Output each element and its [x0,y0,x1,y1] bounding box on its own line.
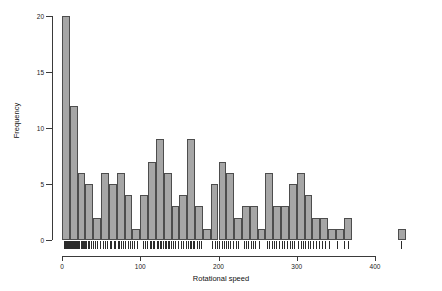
histogram-bar [117,173,125,240]
rug-tick [267,241,268,249]
rug-tick [255,241,256,249]
x-axis-tick-label: 300 [282,263,312,271]
histogram-bar [85,184,93,240]
rug-tick [253,241,254,249]
y-axis-tick-label: 5 [22,181,44,188]
rug-tick [305,241,306,249]
rug-tick [310,241,311,249]
rug-tick [147,241,148,249]
y-axis-tick [46,240,52,241]
histogram-bar [195,206,203,240]
rug-tick [246,241,247,249]
histogram-bar [328,229,336,240]
histogram-bar [172,206,180,240]
y-axis-tick-label: 15 [22,69,44,76]
rug-tick [154,241,155,249]
rug-tick [248,241,249,249]
x-axis-title: Rotational speed [0,274,442,283]
histogram-bar [70,106,78,240]
y-axis-tick [46,184,52,185]
histogram-bar [179,195,187,240]
y-axis-tick-label: 10 [22,125,44,132]
rug-tick [212,241,213,249]
rug-tick [325,241,326,249]
y-axis-tick [46,16,52,17]
y-axis-tick [46,72,52,73]
histogram-bar [336,229,344,240]
rug-tick [329,241,330,249]
histogram-plot: 05101520 Frequency 0100200300400 Rotatio… [0,0,442,291]
histogram-bar [140,195,148,240]
rug-tick [301,241,302,249]
rug-tick [171,241,172,249]
rug-tick [230,241,231,249]
histogram-bar [297,173,305,240]
rug-tick [313,241,314,249]
rug-tick [287,241,288,249]
rug-tick [217,241,218,249]
rug-tick [181,241,182,249]
histogram-bar [62,16,70,240]
histogram-bar [312,218,320,240]
rug-tick [100,241,101,249]
rug-tick [269,241,270,249]
rug-tick [292,241,293,249]
histogram-bar [305,195,313,240]
rug-tick [322,241,323,249]
histogram-bar [219,162,227,240]
histogram-bar [93,218,101,240]
rug-tick [244,241,245,249]
rug-tick [219,241,220,249]
rug-tick [134,241,135,249]
rug-tick [303,241,304,249]
rug-tick [238,241,239,249]
rug-tick [173,241,174,249]
x-axis-tick-label: 400 [360,263,390,271]
histogram-bar [273,206,281,240]
rug-tick [115,241,116,249]
histogram-bar [344,218,352,240]
rug-tick [111,241,112,249]
rug-tick [128,241,129,249]
histogram-bar [211,184,219,240]
histogram-bar [203,229,211,240]
y-axis-tick-label: 20 [22,13,44,20]
rug-tick [226,241,227,249]
rug-tick [186,241,187,249]
rug-tick [175,241,176,249]
rug-tick [294,241,295,249]
rug-tick [199,241,200,249]
histogram-bar [125,195,133,240]
rug-tick [93,241,94,249]
rug-tick [197,241,198,249]
rug-tick [178,241,179,249]
rug-tick [272,241,273,249]
rug-tick [251,241,252,249]
rug-tick [276,241,277,249]
plot-panel [62,16,410,240]
rug-tick [194,241,195,249]
rug-tick [308,241,309,249]
y-axis-tick [46,128,52,129]
x-axis-tick [62,256,63,261]
x-axis-tick-label: 100 [125,263,155,271]
histogram-bar [250,206,258,240]
histogram-bar [226,173,234,240]
rug-tick [201,241,202,249]
rug-tick [105,241,106,249]
rug-tick [284,241,285,249]
histogram-bar [156,139,164,240]
rug-tick [233,241,234,249]
rug-tick [143,241,144,249]
histogram-bar [320,218,328,240]
histogram-bar [101,173,109,240]
x-axis-tick-label: 200 [204,263,234,271]
rug-tick [344,241,345,249]
rug-tick [123,241,124,249]
histogram-bar [258,229,266,240]
rug-tick [279,241,280,249]
rug-plot [62,241,410,249]
rug-tick [222,241,223,249]
rug-tick [228,241,229,249]
rug-tick [132,241,133,249]
